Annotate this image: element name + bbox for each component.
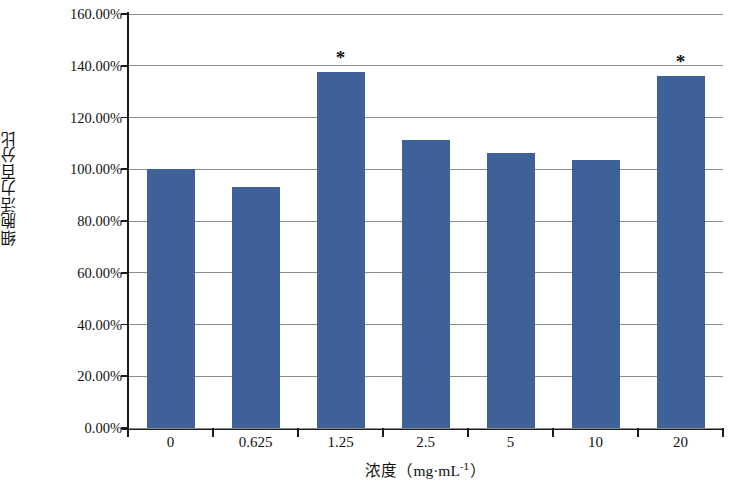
x-axis-tick-label: 5 xyxy=(468,433,553,451)
x-axis-tick-label: 1.25 xyxy=(298,433,383,451)
y-axis-tick-label: 160.00% xyxy=(36,7,122,22)
plot-area: ** xyxy=(128,14,723,428)
bar-chart-figure: 细胞活力百分比 160.00%140.00%120.00%100.00%80.0… xyxy=(0,0,731,488)
x-axis-title-unit: mg·mL xyxy=(413,462,460,479)
bar xyxy=(487,153,535,428)
x-axis-title: 浓度（mg·mL-1） xyxy=(128,461,723,481)
y-axis-tick-labels: 160.00%140.00%120.00%100.00%80.00%60.00%… xyxy=(32,0,122,488)
y-axis-tick-label: 140.00% xyxy=(36,59,122,74)
y-axis-tick-label: 0.00% xyxy=(36,421,122,436)
x-axis-title-name: 浓度 xyxy=(365,462,397,480)
significance-asterisk: * xyxy=(317,48,365,67)
bar xyxy=(657,76,705,428)
x-axis-tick-label: 0 xyxy=(128,433,213,451)
y-axis-tick-label: 60.00% xyxy=(36,266,122,281)
x-axis-tick-label: 2.5 xyxy=(383,433,468,451)
bars-layer xyxy=(128,14,723,428)
x-axis-tick-label: 20 xyxy=(638,433,723,451)
bar xyxy=(317,72,365,428)
significance-asterisk: * xyxy=(657,52,705,71)
y-axis-tick-label: 100.00% xyxy=(36,162,122,177)
y-axis-title: 细胞活力百分比 xyxy=(2,130,28,246)
bar xyxy=(147,169,195,428)
x-axis-tick-label: 0.625 xyxy=(213,433,298,451)
x-axis-tick-labels: 00.6251.252.551020 xyxy=(128,433,723,457)
x-axis-title-open-paren: （ xyxy=(397,462,413,480)
bar xyxy=(232,187,280,428)
y-axis-tick-label: 80.00% xyxy=(36,214,122,229)
bar xyxy=(572,160,620,428)
y-axis-tick-label: 20.00% xyxy=(36,369,122,384)
y-axis-tick-label: 40.00% xyxy=(36,318,122,333)
x-axis-title-close-paren: ） xyxy=(470,462,486,480)
x-axis-tick-label: 10 xyxy=(553,433,638,451)
bar xyxy=(402,140,450,428)
y-axis-tick-label: 120.00% xyxy=(36,111,122,126)
x-axis-title-exponent: -1 xyxy=(460,461,470,472)
